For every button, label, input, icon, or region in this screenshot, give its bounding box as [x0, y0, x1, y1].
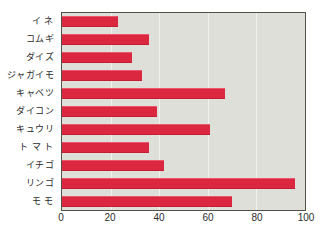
bar-row [62, 13, 305, 31]
category-label: ダイズ [0, 48, 58, 66]
category-label: ト マ ト [0, 139, 58, 157]
bar-row [62, 103, 305, 121]
category-label: キャベツ [0, 84, 58, 102]
bar [62, 124, 210, 135]
bar [62, 16, 118, 27]
category-axis: イ ネ コムギ ダイズ ジャガイモ キャベツ ダイコン キュウリ ト マ ト イ… [0, 12, 58, 211]
value-axis: 020406080100 [61, 213, 306, 233]
bar-row [62, 156, 305, 174]
category-label: リンゴ [0, 175, 58, 193]
bar-row [62, 49, 305, 67]
category-label: ダイコン [0, 102, 58, 120]
category-label: モ モ [0, 193, 58, 211]
bars-layer [62, 13, 305, 210]
bar [62, 142, 149, 153]
bar [62, 34, 149, 45]
x-tick-label: 20 [104, 213, 115, 223]
bar-row [62, 192, 305, 210]
bar-chart: イ ネ コムギ ダイズ ジャガイモ キャベツ ダイコン キュウリ ト マ ト イ… [0, 0, 324, 239]
category-label: イチゴ [0, 157, 58, 175]
bar [62, 178, 295, 189]
category-label: ジャガイモ [0, 66, 58, 84]
bar-row [62, 174, 305, 192]
bar-row [62, 67, 305, 85]
x-tick-label: 80 [251, 213, 262, 223]
category-label: イ ネ [0, 12, 58, 30]
bar [62, 52, 132, 63]
x-tick-label: 60 [202, 213, 213, 223]
x-tick-label: 100 [298, 213, 315, 223]
bar [62, 160, 164, 171]
category-label: コムギ [0, 30, 58, 48]
bar [62, 106, 157, 117]
bar-row [62, 138, 305, 156]
bar [62, 88, 225, 99]
bar-row [62, 120, 305, 138]
x-tick-label: 0 [58, 213, 64, 223]
bar [62, 70, 142, 81]
x-tick-label: 40 [153, 213, 164, 223]
plot-area [61, 12, 306, 211]
bar-row [62, 31, 305, 49]
bar [62, 196, 232, 207]
category-label: キュウリ [0, 121, 58, 139]
bar-row [62, 85, 305, 103]
